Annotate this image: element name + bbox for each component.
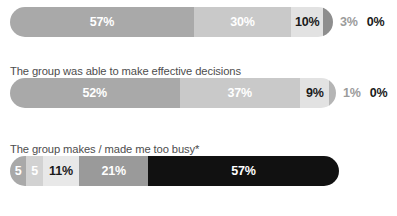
bar-segment: 57% — [148, 156, 339, 186]
bar-segment: 52% — [10, 78, 180, 108]
bar-segment: 57% — [10, 7, 194, 37]
outside-value-label: 1% — [343, 87, 361, 100]
bar-segment: 10% — [291, 7, 323, 37]
bar-segment: 9% — [300, 78, 329, 108]
segment-value-label: 52% — [83, 87, 107, 100]
stacked-bar: 57%30%10% — [10, 7, 333, 37]
segment-value-label: 30% — [230, 16, 254, 29]
segment-value-label: 57% — [231, 165, 255, 178]
outside-value-labels: 3%0% — [340, 7, 384, 37]
bar-segment: 30% — [194, 7, 291, 37]
bar-segment: 11% — [43, 156, 79, 186]
bar-segment — [323, 7, 333, 37]
row-label: The group makes / made me too busy* — [10, 142, 397, 156]
stacked-bar: 52%37%9% — [10, 78, 336, 108]
bar-segment: 5 — [26, 156, 42, 186]
segment-value-label: 11% — [49, 165, 73, 178]
bar-segment: 37% — [180, 78, 301, 108]
segment-value-label: 37% — [228, 87, 252, 100]
segment-value-label: 10% — [295, 16, 319, 29]
chart-row: 57%30%10% 3%0% — [0, 7, 397, 37]
bar-segment: 5 — [10, 156, 26, 186]
bar-segment: 21% — [79, 156, 148, 186]
outside-value-label: 0% — [367, 16, 385, 29]
row-label: The group was able to make effective dec… — [10, 64, 397, 78]
bar-segment — [329, 78, 336, 108]
outside-value-label: 0% — [370, 87, 388, 100]
chart-row: The group makes / made me too busy* 5511… — [0, 142, 397, 186]
segment-value-label: 5 — [31, 165, 38, 178]
segment-value-label: 57% — [90, 16, 114, 29]
outside-value-label: 3% — [340, 16, 358, 29]
segment-value-label: 9% — [306, 87, 324, 100]
segment-value-label: 21% — [101, 165, 125, 178]
chart-row: The group was able to make effective dec… — [0, 64, 397, 108]
stacked-bar-chart: 57%30%10% 3%0% The group was able to mak… — [0, 0, 397, 216]
segment-value-label: 5 — [15, 165, 22, 178]
outside-value-labels: 1%0% — [343, 78, 387, 108]
stacked-bar: 5511%21%57% — [10, 156, 339, 186]
